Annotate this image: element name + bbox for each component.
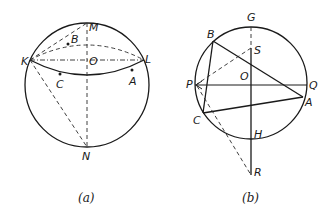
- segment-KN: [30, 60, 87, 147]
- label-N: N: [82, 150, 90, 163]
- label-O-b: O: [240, 70, 249, 83]
- caption-b: (b): [242, 191, 259, 205]
- side-AC: [203, 97, 303, 113]
- point-C-a: [59, 73, 62, 76]
- label-G: G: [247, 11, 256, 24]
- label-H: H: [254, 128, 262, 141]
- caption-a: (a): [78, 191, 95, 205]
- point-B-a: [67, 43, 70, 46]
- segment-PR: [197, 86, 251, 175]
- label-P: P: [186, 78, 193, 91]
- point-A-a: [131, 69, 134, 72]
- label-C-b: C: [193, 114, 201, 127]
- label-R: R: [254, 166, 262, 179]
- label-M: M: [89, 21, 99, 34]
- label-S: S: [254, 44, 261, 57]
- figure-a: M B K O L C A N (a): [21, 21, 151, 205]
- diagram-canvas: M B K O L C A N (a) G B S O P Q A C: [0, 0, 328, 218]
- label-B-b: B: [207, 28, 215, 41]
- label-B-a: B: [71, 33, 79, 46]
- label-Q: Q: [309, 79, 318, 92]
- label-C-a: C: [56, 78, 64, 91]
- label-K: K: [21, 55, 29, 68]
- label-A-a: A: [128, 75, 137, 88]
- figure-b: G B S O P Q A C H R (b): [186, 11, 318, 205]
- label-L: L: [145, 53, 151, 66]
- label-A-b: A: [304, 96, 313, 109]
- label-O-a: O: [89, 55, 98, 68]
